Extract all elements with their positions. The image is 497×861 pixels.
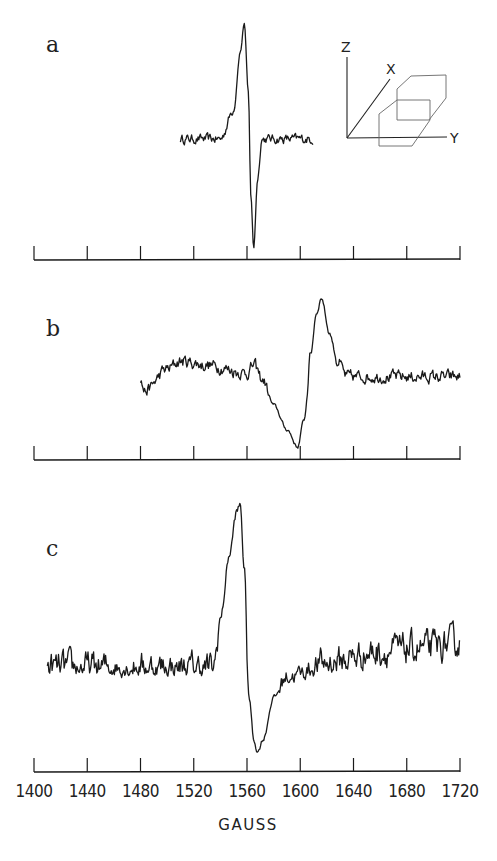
panel-b-axis	[34, 446, 460, 460]
panel-c-axis	[34, 758, 460, 772]
x-axis-title: GAUSS	[218, 816, 277, 834]
panel-a-axis	[34, 246, 460, 260]
panel-c-trace	[47, 503, 459, 752]
x-tick-label-1520: 1520	[175, 781, 212, 801]
epr-spectra-figure: a b c 1400144014801520156016001640168017…	[0, 0, 497, 861]
panel-b-trace	[141, 299, 461, 448]
inset-y-label: Y	[449, 130, 459, 146]
x-tick-label-1480: 1480	[122, 781, 159, 801]
x-tick-label-1440: 1440	[69, 781, 106, 801]
inset-hexagon-upper	[397, 75, 446, 120]
inset-y-axis	[347, 137, 447, 138]
x-tick-label-1680: 1680	[388, 781, 425, 801]
inset-x-label: X	[386, 61, 396, 77]
inset-z-label: Z	[341, 39, 351, 55]
inset-hexagon-lower	[379, 100, 430, 146]
x-tick-label-1560: 1560	[229, 781, 266, 801]
panel-a-trace	[180, 24, 313, 248]
panel-label-b: b	[46, 316, 60, 341]
x-tick-label-1400: 1400	[16, 781, 53, 801]
x-tick-label-1600: 1600	[282, 781, 319, 801]
x-tick-labels: 140014401480152015601600164016801720	[16, 781, 479, 801]
panel-label-c: c	[46, 536, 58, 561]
molecular-axes-inset: Z X Y	[341, 39, 459, 146]
x-tick-label-1720: 1720	[442, 781, 479, 801]
inset-x-axis	[347, 79, 390, 138]
panel-label-a: a	[46, 32, 59, 57]
x-tick-label-1640: 1640	[335, 781, 372, 801]
